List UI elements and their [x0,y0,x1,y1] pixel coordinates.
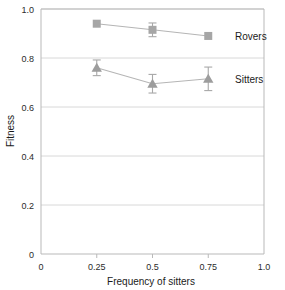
y-tick-label-0.4: 0.4 [21,152,34,162]
x-tick-label-1.0: 1.0 [258,262,271,272]
y-tick-label-0: 0 [29,250,34,260]
data-point-marker-square [204,32,212,40]
x-tick-label-0.5: 0.5 [146,262,159,272]
x-axis-ticks: 00.250.50.751.0 [38,254,270,272]
legend-label-sitters: Sitters [235,74,263,85]
y-tick-label-0.8: 0.8 [21,54,34,64]
chart-container: 00.250.50.751.0 00.20.40.60.81.0 RoversS… [0,0,285,290]
data-point-marker-square [149,26,157,34]
x-tick-label-0.75: 0.75 [199,262,217,272]
data-point-marker-triangle [203,74,213,83]
y-axis-title: Fitness [5,115,16,147]
data-point-marker-triangle [92,63,102,72]
data-series-layer [92,20,214,93]
y-tick-label-1.0: 1.0 [21,5,34,15]
x-axis-title: Frequency of sitters [107,276,195,287]
fitness-vs-frequency-chart: 00.250.50.751.0 00.20.40.60.81.0 RoversS… [0,0,285,290]
y-tick-label-0.6: 0.6 [21,103,34,113]
legend-label-rovers: Rovers [235,31,267,42]
series-rovers [93,20,213,40]
x-tick-label-0.25: 0.25 [88,262,106,272]
plot-frame [41,9,264,254]
y-axis-ticks: 00.20.40.60.81.0 [21,5,34,260]
gridlines [41,9,264,205]
y-tick-label-0.2: 0.2 [21,201,34,211]
series-sitters [92,60,214,93]
x-tick-label-0: 0 [38,262,43,272]
data-point-marker-square [93,20,101,28]
